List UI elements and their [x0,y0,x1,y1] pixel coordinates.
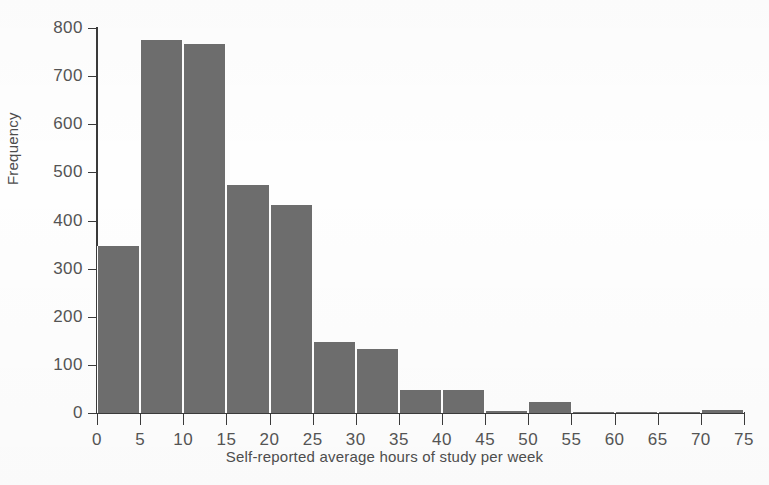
histogram-bar [270,205,313,413]
y-tick-mark [88,124,97,125]
y-tick-mark [88,76,97,77]
x-tick-mark [270,414,271,425]
y-tick-label: 800 [53,18,83,38]
y-tick-mark [88,269,97,270]
x-tick-mark [97,414,98,425]
histogram-bar [226,185,269,413]
x-tick-mark [226,414,227,425]
histogram-bar [442,390,485,413]
x-tick-label: 40 [432,430,452,450]
y-tick-label: 300 [53,259,83,279]
x-tick-label: 25 [303,430,323,450]
histogram-bar [701,410,744,413]
y-tick-mark [88,317,97,318]
histogram-bar [485,411,528,413]
y-tick-label: 600 [53,114,83,134]
y-tick-label: 200 [53,307,83,327]
x-tick-mark [183,414,184,425]
histogram-bar [615,412,658,413]
y-axis-label: Frequency [4,112,21,185]
histogram-bar [399,390,442,413]
x-tick-mark [399,414,400,425]
x-tick-label: 45 [475,430,495,450]
x-tick-mark [356,414,357,425]
x-tick-label: 55 [561,430,581,450]
y-tick-label: 0 [73,403,83,423]
x-tick-label: 5 [135,430,145,450]
y-tick-label: 700 [53,66,83,86]
histogram-bar [356,349,399,413]
x-tick-label: 60 [605,430,625,450]
x-axis-label: Self-reported average hours of study per… [0,448,769,465]
x-tick-mark [528,414,529,425]
y-tick-mark [88,413,97,414]
x-tick-label: 50 [518,430,538,450]
x-tick-mark [615,414,616,425]
histogram-bar [572,412,615,413]
histogram-bar [528,402,571,413]
histogram-bar [140,40,183,413]
x-tick-label: 0 [92,430,102,450]
x-tick-mark [140,414,141,425]
x-tick-label: 20 [260,430,280,450]
histogram-bar [313,342,356,413]
histogram-figure: Frequency 0100200300400500600700800 0510… [0,0,769,485]
plot-area [97,28,744,413]
histogram-bar [658,412,701,413]
y-tick-label: 100 [53,355,83,375]
x-tick-mark [744,414,745,425]
y-tick-mark [88,172,97,173]
histogram-bar [183,44,226,413]
x-tick-mark [571,414,572,425]
y-tick-mark [88,221,97,222]
bar-series [97,28,744,413]
x-tick-mark [485,414,486,425]
y-tick-mark [88,365,97,366]
x-tick-mark [313,414,314,425]
x-tick-label: 65 [648,430,668,450]
x-tick-label: 35 [389,430,409,450]
x-tick-mark [442,414,443,425]
x-tick-label: 30 [346,430,366,450]
y-tick-label: 500 [53,162,83,182]
y-tick-mark [88,28,97,29]
x-tick-label: 75 [734,430,754,450]
x-tick-label: 70 [691,430,711,450]
x-tick-label: 10 [173,430,193,450]
x-tick-label: 15 [216,430,236,450]
histogram-bar [97,246,140,413]
y-tick-label: 400 [53,211,83,231]
x-tick-mark [658,414,659,425]
x-tick-mark [701,414,702,425]
